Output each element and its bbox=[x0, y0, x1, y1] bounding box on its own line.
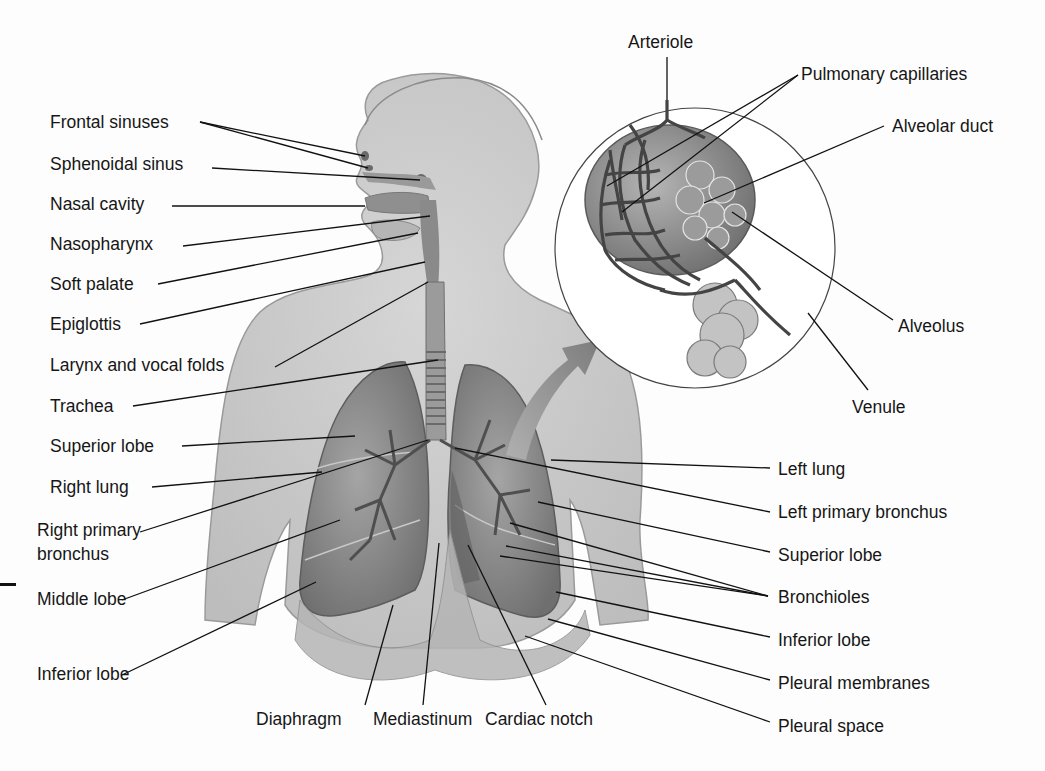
label-arteriole: Arteriole bbox=[628, 32, 693, 52]
label-superior-lobe-right: Superior lobe bbox=[50, 436, 154, 456]
label-pleural-space: Pleural space bbox=[778, 716, 884, 736]
respiratory-diagram: Arteriole Pulmonary capillaries Alveolar… bbox=[0, 0, 1045, 771]
label-venule: Venule bbox=[852, 397, 906, 417]
label-mediastinum: Mediastinum bbox=[373, 709, 472, 729]
label-epiglottis: Epiglottis bbox=[50, 314, 121, 334]
label-inferior-lobe-left: Inferior lobe bbox=[778, 630, 870, 650]
label-nasopharynx: Nasopharynx bbox=[50, 234, 153, 254]
label-right-primary-bronchus: Right primary bronchus bbox=[37, 518, 177, 566]
label-nasal-cavity: Nasal cavity bbox=[50, 194, 144, 214]
label-cardiac-notch: Cardiac notch bbox=[485, 709, 593, 729]
alveoli-inset bbox=[555, 100, 835, 388]
label-pleural-membranes: Pleural membranes bbox=[778, 673, 930, 693]
label-pulmonary-capillaries: Pulmonary capillaries bbox=[801, 64, 967, 84]
label-bronchioles: Bronchioles bbox=[778, 587, 869, 607]
edge-mark bbox=[0, 583, 16, 586]
label-frontal-sinuses: Frontal sinuses bbox=[50, 112, 169, 132]
label-sphenoidal-sinus: Sphenoidal sinus bbox=[50, 154, 183, 174]
label-larynx-vocal-folds: Larynx and vocal folds bbox=[50, 355, 224, 375]
label-right-lung: Right lung bbox=[50, 477, 129, 497]
label-left-lung: Left lung bbox=[778, 459, 845, 479]
label-superior-lobe-left: Superior lobe bbox=[778, 545, 882, 565]
label-diaphragm: Diaphragm bbox=[256, 709, 342, 729]
label-middle-lobe: Middle lobe bbox=[37, 589, 127, 609]
label-soft-palate: Soft palate bbox=[50, 274, 134, 294]
label-alveolar-duct: Alveolar duct bbox=[892, 116, 993, 136]
label-alveolus: Alveolus bbox=[898, 316, 964, 336]
label-inferior-lobe-right: Inferior lobe bbox=[37, 664, 129, 684]
label-trachea: Trachea bbox=[50, 396, 114, 416]
label-left-primary-bronchus: Left primary bronchus bbox=[778, 502, 947, 522]
